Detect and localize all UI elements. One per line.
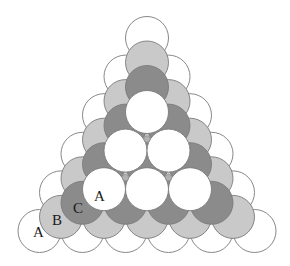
label-layer-a-bottom: A [33, 224, 44, 240]
sphere [169, 168, 212, 211]
label-layer-a-top: A [94, 188, 105, 204]
sphere [126, 91, 169, 134]
sphere [144, 136, 150, 142]
sphere [147, 129, 190, 172]
sphere [122, 174, 128, 180]
sphere-packing-diagram: A B C A [0, 0, 290, 266]
label-layer-c: C [73, 200, 83, 216]
sphere [104, 129, 147, 172]
label-layer-b: B [52, 212, 62, 228]
sphere [165, 174, 171, 180]
sphere [126, 168, 169, 211]
